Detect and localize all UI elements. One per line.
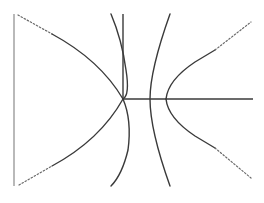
- upper-left-dotted-tail: [18, 15, 52, 34]
- bowed-branch: [111, 14, 129, 186]
- upper-right-dotted-tail: [215, 22, 251, 50]
- lower-left-dotted-tail: [19, 166, 52, 185]
- right-hyperbola-upper: [166, 50, 215, 99]
- curve-diagram: [0, 0, 264, 203]
- lower-right-dotted-tail: [215, 148, 251, 178]
- lower-left-branch: [52, 99, 123, 166]
- upper-left-branch: [52, 34, 123, 99]
- right-hyperbola-lower: [166, 99, 215, 148]
- middle-branch: [150, 14, 170, 186]
